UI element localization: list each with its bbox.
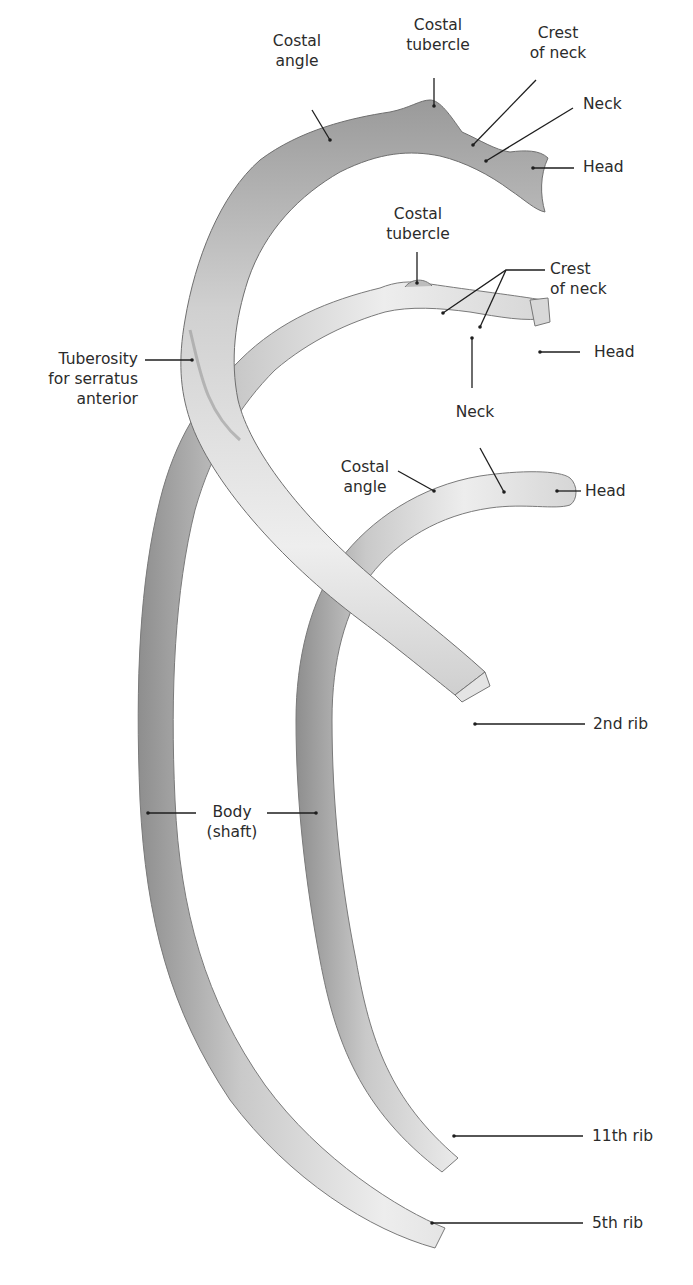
label-rib2-neck: Neck — [583, 94, 622, 114]
label-tuberosity-serratus-anterior: Tuberosity for serratus anterior — [20, 349, 138, 409]
label-5th-rib: 5th rib — [592, 1213, 643, 1233]
label-rib5-costal-tubercle: Costal tubercle — [368, 204, 468, 244]
label-2nd-rib: 2nd rib — [593, 714, 648, 734]
label-rib2-head: Head — [583, 157, 624, 177]
label-neck: Neck — [425, 402, 525, 422]
label-rib11-head: Head — [585, 481, 626, 501]
label-rib2-crest-of-neck: Crest of neck — [508, 23, 608, 63]
label-rib5-head: Head — [594, 342, 635, 362]
rib-2 — [181, 100, 548, 702]
label-rib2-costal-tubercle: Costal tubercle — [388, 15, 488, 55]
label-rib5-crest-of-neck: Crest of neck — [550, 259, 607, 299]
rib-anatomy-figure: Costal angle Costal tubercle Crest of ne… — [0, 0, 693, 1285]
ribs-illustration — [0, 0, 693, 1285]
label-11th-rib: 11th rib — [592, 1126, 653, 1146]
label-rib2-costal-angle: Costal angle — [247, 31, 347, 71]
label-rib11-costal-angle: Costal angle — [315, 457, 415, 497]
label-body-shaft: Body (shaft) — [182, 802, 282, 842]
